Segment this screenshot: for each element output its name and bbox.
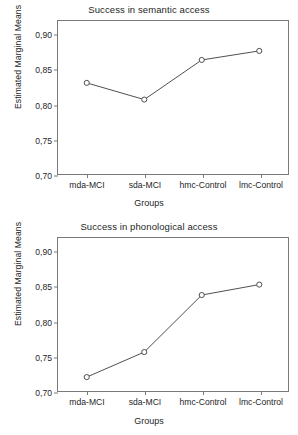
data-point-marker xyxy=(142,349,147,354)
y-axis-tick-mark xyxy=(54,252,58,253)
x-axis-tick-label: hmc-Control xyxy=(180,180,227,190)
y-axis-title-semantic: Estimated Marginal Means xyxy=(13,0,23,137)
chart-title-phonological: Success in phonological access xyxy=(0,221,298,232)
data-point-marker xyxy=(84,80,89,85)
x-axis-title-semantic: Groups xyxy=(0,198,298,208)
x-axis-tick-mark xyxy=(145,391,146,395)
x-axis-tick-mark xyxy=(203,391,204,395)
series-semantic xyxy=(58,21,288,174)
y-axis-tick-mark xyxy=(54,140,58,141)
y-axis-tick-mark xyxy=(54,105,58,106)
data-point-marker xyxy=(257,282,262,287)
x-axis-tick-mark xyxy=(145,174,146,178)
y-axis-tick-mark xyxy=(54,70,58,71)
x-axis-tick-label: sda-MCI xyxy=(129,180,161,190)
panel-semantic-access: Success in semantic access Estimated Mar… xyxy=(0,0,298,217)
x-axis-tick-label: mda-MCI xyxy=(69,180,104,190)
y-axis-tick-mark xyxy=(54,287,58,288)
chart-title-semantic: Success in semantic access xyxy=(0,4,298,15)
data-point-marker xyxy=(84,375,89,380)
x-axis-tick-label: lmc-Control xyxy=(239,397,283,407)
data-point-marker xyxy=(142,97,147,102)
panel-phonological-access: Success in phonological access Estimated… xyxy=(0,217,298,435)
y-axis-tick-mark xyxy=(54,393,58,394)
x-axis-tick-mark xyxy=(261,174,262,178)
data-point-marker xyxy=(257,48,262,53)
y-axis-tick-mark xyxy=(54,176,58,177)
x-axis-tick-label: hmc-Control xyxy=(180,397,227,407)
y-axis-tick-mark xyxy=(54,35,58,36)
plot-area-semantic: 0,700,750,800,850,90mda-MCIsda-MCIhmc-Co… xyxy=(57,20,289,175)
x-axis-title-phonological: Groups xyxy=(0,416,298,426)
x-axis-tick-label: lmc-Control xyxy=(239,180,283,190)
y-axis-tick-mark xyxy=(54,357,58,358)
series-line xyxy=(87,285,260,378)
x-axis-tick-label: sda-MCI xyxy=(129,397,161,407)
x-axis-tick-mark xyxy=(87,174,88,178)
x-axis-tick-mark xyxy=(203,174,204,178)
y-axis-title-phonological: Estimated Marginal Means xyxy=(13,194,23,354)
series-phonological xyxy=(58,238,288,391)
x-axis-tick-label: mda-MCI xyxy=(69,397,104,407)
data-point-marker xyxy=(199,57,204,62)
x-axis-tick-mark xyxy=(261,391,262,395)
data-point-marker xyxy=(199,292,204,297)
series-line xyxy=(87,51,260,100)
plot-area-phonological: 0,700,750,800,850,90mda-MCIsda-MCIhmc-Co… xyxy=(57,237,289,392)
x-axis-tick-mark xyxy=(87,391,88,395)
y-axis-tick-mark xyxy=(54,322,58,323)
